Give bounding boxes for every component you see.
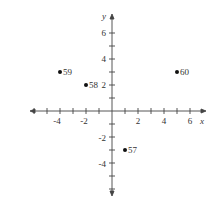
y-axis-label: y bbox=[101, 11, 106, 21]
x-tick-label: 4 bbox=[162, 116, 167, 126]
point-59: 59 bbox=[58, 67, 73, 77]
x-tick-label: -2 bbox=[80, 116, 88, 126]
y-tick-label: 2 bbox=[102, 80, 107, 90]
y-tick-label: 6 bbox=[102, 28, 107, 38]
x-axis-label: x bbox=[199, 116, 204, 126]
point-label: 57 bbox=[128, 145, 138, 155]
point-label: 59 bbox=[63, 67, 73, 77]
point-57: 57 bbox=[123, 145, 138, 155]
point-58: 58 bbox=[84, 80, 99, 90]
point-marker-icon bbox=[123, 148, 127, 152]
y-axis-up-arrow-icon bbox=[110, 14, 114, 19]
point-marker-icon bbox=[84, 83, 88, 87]
point-label: 58 bbox=[89, 80, 99, 90]
y-tick-label: -4 bbox=[99, 159, 107, 169]
y-axis bbox=[109, 14, 115, 196]
coordinate-plane: -4 -2 2 4 6 x 6 4 2 -2 -4 y 57 58 59 60 bbox=[0, 0, 217, 203]
point-marker-icon bbox=[175, 70, 179, 74]
point-60: 60 bbox=[175, 67, 190, 77]
x-tick-label: 6 bbox=[188, 116, 193, 126]
y-axis-down-arrow-icon bbox=[110, 191, 114, 196]
x-tick-label: -4 bbox=[53, 116, 61, 126]
y-tick-label: 4 bbox=[102, 54, 107, 64]
point-marker-icon bbox=[58, 70, 62, 74]
x-tick-label: 2 bbox=[136, 116, 141, 126]
x-axis-right-arrow-icon bbox=[201, 109, 206, 113]
y-tick-label: -2 bbox=[99, 133, 107, 143]
point-label: 60 bbox=[180, 67, 190, 77]
x-axis bbox=[30, 108, 206, 114]
